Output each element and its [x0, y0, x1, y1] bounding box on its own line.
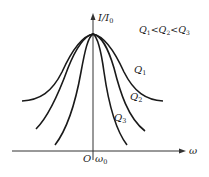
y-axis-label: I/I0 — [97, 12, 113, 25]
resonance-frequency-label: ω0 — [95, 153, 107, 166]
curve-q2 — [36, 34, 145, 131]
resonance-diagram: I/I0 Q1<Q2<Q3 Q1 Q2 Q3 O ω0 ω — [0, 0, 209, 177]
origin-label: O — [83, 153, 91, 164]
curve-q3 — [55, 34, 127, 145]
y-axis-arrow-icon — [91, 13, 96, 20]
curve-label-q1: Q1 — [134, 64, 146, 77]
x-axis-arrow-icon — [179, 149, 186, 154]
x-axis-label: ω — [189, 145, 197, 156]
q-relation-label: Q1<Q2<Q3 — [139, 24, 190, 36]
